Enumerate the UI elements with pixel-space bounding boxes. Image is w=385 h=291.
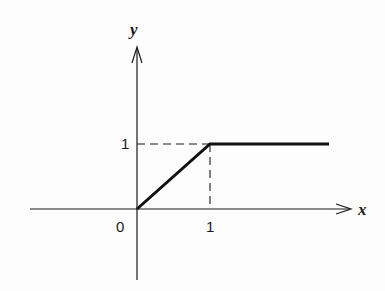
x-axis [30, 204, 351, 214]
y-tick-label-1: 1 [121, 135, 129, 152]
diagram-canvas: y x 1 0 1 [0, 0, 385, 291]
x-tick-label-1: 1 [206, 218, 214, 235]
x-axis-label: x [357, 200, 367, 219]
function-plot: y x 1 0 1 [0, 0, 385, 291]
y-axis-label: y [128, 20, 138, 39]
function-curve [137, 144, 329, 209]
origin-label: 0 [116, 218, 124, 235]
y-axis [132, 47, 142, 280]
